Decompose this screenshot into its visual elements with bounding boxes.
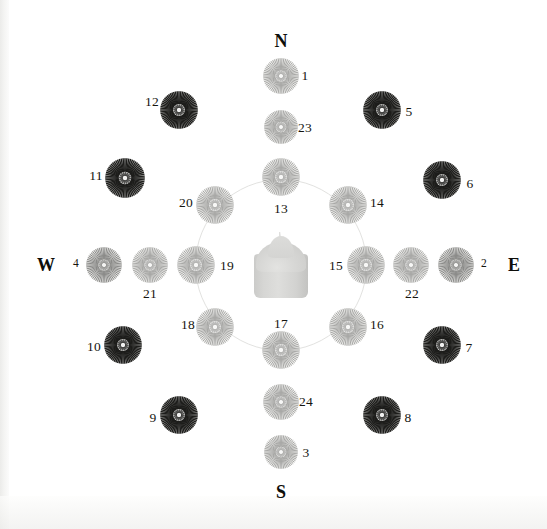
disc-label-10: 10 — [87, 340, 101, 354]
rosette-disc-3 — [264, 435, 298, 469]
rosette-disc-1 — [263, 58, 299, 94]
disc-label-11: 11 — [89, 169, 102, 183]
cardinal-label-north: N — [275, 32, 288, 50]
disc-label-5: 5 — [406, 105, 413, 119]
rosette-disc-19 — [177, 246, 215, 284]
disc-label-1: 1 — [302, 69, 309, 83]
candle-icon — [254, 232, 308, 298]
rosette-disc-11 — [105, 158, 145, 198]
disc-label-20: 20 — [179, 196, 193, 210]
scan-edge-band-bottom — [0, 496, 547, 529]
compass-rosette-figure: 123131724319214152222012111456189101687 … — [0, 0, 547, 529]
disc-label-23: 23 — [298, 121, 312, 135]
disc-label-22: 22 — [405, 287, 419, 301]
disc-label-13: 13 — [274, 202, 288, 216]
rosette-disc-15 — [347, 246, 385, 284]
disc-label-9: 9 — [150, 411, 157, 425]
disc-label-24: 24 — [299, 395, 313, 409]
disc-label-16: 16 — [370, 318, 384, 332]
disc-label-19: 19 — [220, 259, 234, 273]
scan-edge-band-left — [0, 0, 9, 529]
rosette-disc-12 — [160, 91, 198, 129]
rosette-disc-6 — [423, 161, 461, 199]
rosette-disc-10 — [104, 326, 142, 364]
disc-label-7: 7 — [466, 341, 473, 355]
rosette-disc-21 — [132, 247, 168, 283]
cardinal-label-east: E — [508, 256, 520, 274]
rosette-disc-20 — [196, 186, 234, 224]
disc-label-12: 12 — [145, 95, 159, 109]
disc-label-17: 17 — [274, 317, 288, 331]
rosette-disc-8 — [363, 396, 401, 434]
rosette-disc-2 — [438, 247, 474, 283]
rosette-disc-22 — [393, 247, 429, 283]
disc-label-3: 3 — [303, 446, 310, 460]
rosette-disc-9 — [160, 396, 198, 434]
cardinal-label-south: S — [276, 483, 286, 501]
disc-label-21: 21 — [143, 287, 157, 301]
disc-label-2: 2 — [481, 258, 487, 270]
rosette-disc-23 — [264, 110, 298, 144]
disc-label-6: 6 — [467, 177, 474, 191]
rosette-disc-16 — [329, 308, 367, 346]
rosette-disc-24 — [263, 384, 299, 420]
disc-label-8: 8 — [405, 411, 412, 425]
disc-label-15: 15 — [329, 259, 343, 273]
cardinal-label-west: W — [37, 256, 55, 274]
disc-label-18: 18 — [181, 318, 195, 332]
disc-label-14: 14 — [370, 196, 384, 210]
rosette-disc-17 — [262, 331, 300, 369]
disc-label-4: 4 — [73, 258, 79, 270]
rosette-disc-4 — [86, 247, 122, 283]
rosette-disc-13 — [262, 158, 300, 196]
rosette-disc-18 — [196, 308, 234, 346]
rosette-disc-5 — [363, 91, 401, 129]
candle-shoulder — [268, 236, 294, 258]
rosette-disc-14 — [329, 186, 367, 224]
rosette-disc-7 — [423, 326, 461, 364]
